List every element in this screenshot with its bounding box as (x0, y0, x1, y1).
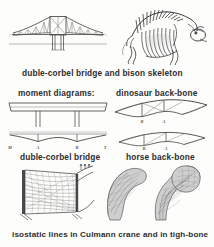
caption-row1: duble-corbel bridge and bison skeleton (22, 68, 183, 78)
caption-moment-diagrams: moment diagrams: (18, 88, 95, 98)
caption-row4: isostatic lines in Culmann crane and in … (12, 230, 208, 240)
caption-duble-corbel-bridge: duble-corbel bridge (20, 152, 100, 162)
node-label-horse-b: B (142, 146, 146, 151)
node-label-horse-a: A (164, 146, 168, 151)
figure-horse-backbone: B A (116, 130, 208, 152)
node-label-t: T (104, 145, 107, 150)
node-label-dino-b: B (140, 119, 144, 124)
caption-dinosaur-backbone: dinosaur back-bone (116, 88, 198, 98)
figure-tigh-bone (102, 162, 210, 222)
figure-plate: duble-corbel bridge and bison skeleton m… (0, 0, 214, 247)
figure-dinosaur-backbone: B A (112, 98, 210, 128)
figure-cantilever-bridge (8, 4, 108, 64)
node-label-m: M (7, 145, 13, 150)
node-label-a: A (36, 145, 40, 150)
figure-bison-skeleton (112, 2, 210, 66)
caption-horse-backbone: horse back-bone (126, 152, 195, 162)
node-label-dino-a: A (162, 119, 166, 124)
figure-moment-diagram-beam (6, 100, 110, 128)
node-label-b: B (75, 145, 79, 150)
figure-moment-diagram-curve: M A B T (6, 130, 110, 154)
figure-culmann-crane (14, 164, 98, 222)
